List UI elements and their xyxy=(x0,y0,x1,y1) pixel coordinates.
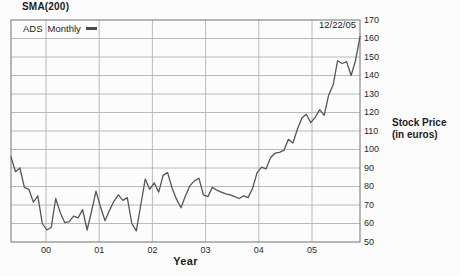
y-axis-title: Stock Price (in euros) xyxy=(392,117,446,141)
y-tick-80: 80 xyxy=(364,181,374,191)
y-tick-100: 100 xyxy=(364,144,379,154)
x-axis-title: Year xyxy=(11,255,360,267)
y-tick-140: 140 xyxy=(364,70,379,80)
y-tick-150: 150 xyxy=(364,52,379,62)
x-tick-05: 05 xyxy=(302,245,322,255)
gridlines xyxy=(11,20,360,242)
legend-line-swatch-icon xyxy=(86,27,97,30)
y-tick-110: 110 xyxy=(364,126,378,136)
stock-price-series-line xyxy=(11,37,360,231)
legend-series-label: ADS xyxy=(23,23,43,34)
y-tick-160: 160 xyxy=(364,33,379,43)
last-date-annotation: 12/22/05 xyxy=(300,19,356,30)
y-tick-170: 170 xyxy=(364,15,379,25)
x-tick-00: 00 xyxy=(36,245,56,255)
y-tick-120: 120 xyxy=(364,107,379,117)
x-tick-04: 04 xyxy=(249,245,269,255)
x-tick-01: 01 xyxy=(89,245,109,255)
legend: ADS Monthly xyxy=(23,23,97,34)
y-tick-130: 130 xyxy=(364,89,379,99)
y-tick-70: 70 xyxy=(364,200,374,210)
x-tick-02: 02 xyxy=(142,245,162,255)
y-axis-title-line2: (in euros) xyxy=(392,129,446,141)
y-axis-title-line1: Stock Price xyxy=(392,117,446,129)
y-tick-60: 60 xyxy=(364,218,374,228)
x-tick-03: 03 xyxy=(196,245,216,255)
plot-area xyxy=(0,0,460,276)
legend-interval-label: Monthly xyxy=(48,23,81,34)
chart-canvas: SMA(200) ADS Monthly 12/22/05 Stock Pric… xyxy=(0,0,460,276)
y-tick-50: 50 xyxy=(364,237,374,247)
y-tick-90: 90 xyxy=(364,163,374,173)
